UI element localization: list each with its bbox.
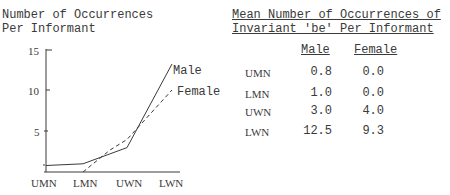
female-value: 4.0: [342, 104, 384, 118]
female-value: 9.3: [342, 124, 384, 138]
table-title-line2: Invariant 'be' Per Informant: [232, 22, 434, 36]
table-header-male: Male: [301, 43, 330, 57]
series-line-male: [46, 64, 172, 166]
row-label: LWN: [245, 125, 269, 139]
row-label: UMN: [245, 66, 271, 80]
table-header-female: Female: [354, 43, 397, 57]
male-value: 1.0: [290, 86, 332, 100]
female-value: 0.0: [342, 65, 384, 79]
male-value: 0.8: [290, 65, 332, 79]
female-value: 0.0: [342, 86, 384, 100]
male-value: 12.5: [290, 124, 332, 138]
male-value: 3.0: [290, 104, 332, 118]
row-label: UWN: [245, 105, 271, 119]
table-title-line1: Mean Number of Occurrences of: [232, 8, 441, 22]
row-label: LMN: [245, 87, 269, 101]
series-line-female: [83, 90, 172, 172]
